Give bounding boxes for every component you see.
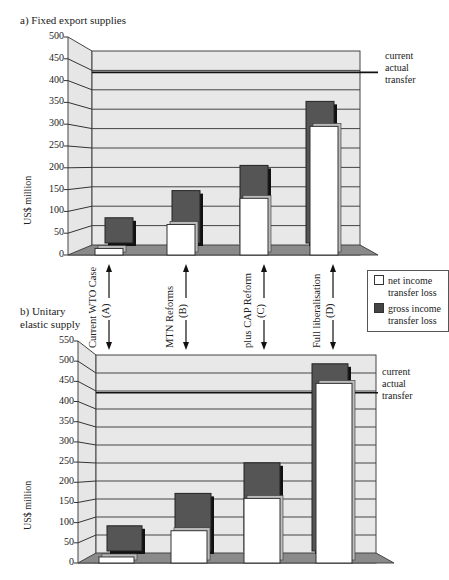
y-tick-label: 400 <box>44 395 74 406</box>
category-name: plus CAP Reform <box>242 273 253 348</box>
chart-b-ylabel: US$ million <box>22 481 33 530</box>
annotation-line-3: transfer <box>385 74 416 86</box>
legend: net incometransfer loss gross incometran… <box>367 270 449 332</box>
annotation-line-2: actual <box>382 378 413 390</box>
category-name: MTN Reforms <box>164 286 175 348</box>
category-code: (D) <box>324 303 335 318</box>
gross-swatch-icon <box>374 303 384 313</box>
annotation-line-1: current <box>382 366 413 378</box>
net-swatch-icon <box>374 275 384 285</box>
chart-b-title: b) Unitary elastic supply <box>20 305 80 331</box>
y-tick-label: 0 <box>44 556 74 567</box>
chart-a-annotation: current actual transfer <box>385 50 416 86</box>
legend-gross-label-2: transfer loss <box>374 315 437 326</box>
y-tick-label: 200 <box>44 475 74 486</box>
category-code: (B) <box>177 304 188 318</box>
chart-b-annotation: current actual transfer <box>382 366 413 402</box>
chart-b-title-1: b) Unitary <box>20 305 80 318</box>
y-tick-label: 300 <box>44 435 74 446</box>
y-tick-label: 550 <box>44 334 74 345</box>
annotation-line-3: transfer <box>382 390 413 402</box>
legend-net-label: net income <box>388 275 432 286</box>
annotation-line-2: actual <box>385 62 416 74</box>
category-code: (A) <box>100 303 111 318</box>
legend-item-net: net incometransfer loss <box>374 275 442 299</box>
y-tick-label: 50 <box>44 536 74 547</box>
legend-gross-label: gross income <box>388 303 441 314</box>
y-tick-label: 150 <box>44 495 74 506</box>
legend-net-label-2: transfer loss <box>374 287 437 298</box>
category-code: (C) <box>255 304 266 318</box>
annotation-line-1: current <box>385 50 416 62</box>
chart-b-title-2: elastic supply <box>20 318 80 331</box>
y-tick-label: 500 <box>44 354 74 365</box>
y-tick-label: 450 <box>44 374 74 385</box>
y-tick-label: 350 <box>44 415 74 426</box>
y-tick-label: 100 <box>44 516 74 527</box>
y-tick-label: 250 <box>44 455 74 466</box>
category-name: Current WTO Case <box>87 267 98 348</box>
legend-item-gross: gross incometransfer loss <box>374 303 442 327</box>
category-name: Full liberalisation <box>311 274 322 348</box>
